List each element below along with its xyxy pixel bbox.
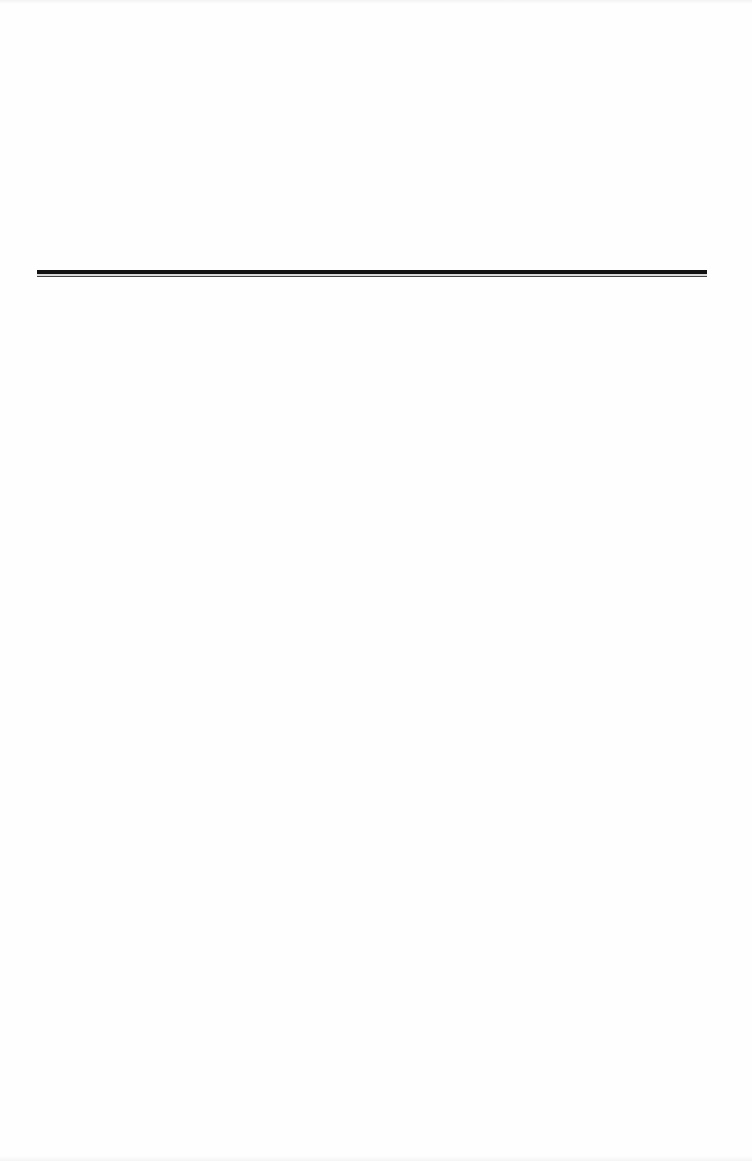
horizontal-double-rule — [37, 270, 707, 277]
document-page — [0, 0, 752, 1161]
rule-thin-line — [37, 276, 707, 277]
bottom-edge-bleed — [0, 1156, 752, 1161]
top-edge-bleed — [0, 0, 752, 4]
